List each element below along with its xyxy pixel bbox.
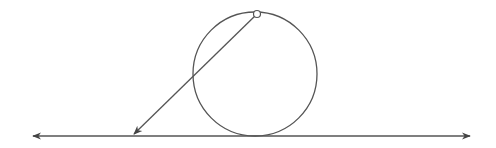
- circle: [193, 12, 317, 136]
- top-point: [254, 11, 261, 18]
- diagram-canvas: [0, 0, 496, 148]
- arrow-line: [134, 14, 257, 134]
- diagram-svg: [0, 0, 496, 148]
